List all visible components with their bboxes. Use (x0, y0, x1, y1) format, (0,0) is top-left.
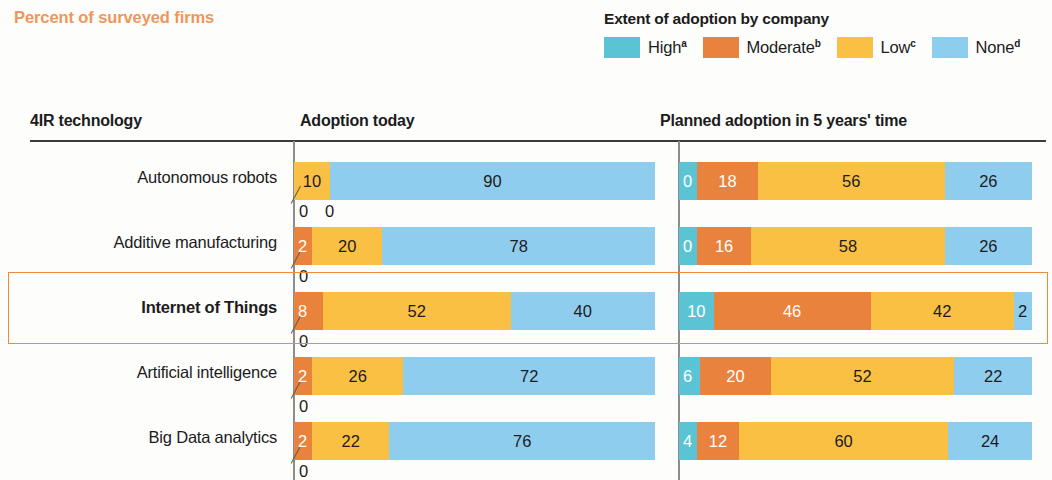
zero-callout-high: 0 (299, 462, 308, 480)
bar-value-label: 10 (303, 172, 321, 191)
bar-segment-future-moderate: 12 (697, 422, 739, 460)
row-label-additive-manufacturing: Additive manufacturing (114, 233, 277, 252)
stacked-bar-future: 0165826 (679, 227, 1032, 265)
bar-segment-today-low: 20 (312, 227, 382, 265)
bar-value-label: 46 (783, 302, 801, 321)
bar-value-label: 52 (853, 367, 871, 386)
bar-value-label: 72 (520, 367, 538, 386)
bar-value-label: 0 (679, 237, 692, 256)
bar-value-label: 22 (984, 367, 1002, 386)
legend-swatch-high-icon (604, 37, 640, 58)
bar-segment-future-high: 0 (679, 162, 697, 200)
bar-value-label: 78 (509, 237, 527, 256)
bar-value-label: 60 (834, 432, 852, 451)
legend-footnote-marker: b (815, 38, 821, 49)
row-label-autonomous-robots: Autonomous robots (137, 168, 277, 187)
column-header-planned-adoption: Planned adoption in 5 years' time (660, 112, 907, 130)
legend-item-high[interactable]: Higha (604, 37, 687, 58)
bar-value-label: 2 (294, 432, 307, 451)
bar-value-label: 26 (979, 172, 997, 191)
legend-item-moderate[interactable]: Moderateb (703, 37, 821, 58)
bar-value-label: 26 (979, 237, 997, 256)
bar-segment-future-none: 22 (954, 357, 1032, 395)
figure-kicker: Percent of surveyed firms (14, 8, 214, 27)
stacked-bar-today: 22276 (294, 422, 655, 460)
legend-footnote-marker: d (1014, 38, 1020, 49)
stacked-bar-today: 1090 (294, 162, 655, 200)
chart-row[interactable]: Autonomous robots1090018562600 (0, 150, 1052, 215)
bar-segment-today-none: 90 (330, 162, 655, 200)
bar-segment-today-low: 26 (312, 357, 403, 395)
bar-value-label: 26 (348, 367, 366, 386)
bar-segment-future-high: 6 (679, 357, 700, 395)
chart-row[interactable]: Artificial intelligence2267262052220 (0, 345, 1052, 410)
legend-title: Extent of adoption by company (604, 10, 1052, 28)
bar-value-label: 20 (338, 237, 356, 256)
bar-value-label: 24 (981, 432, 999, 451)
bar-segment-today-none: 76 (389, 422, 655, 460)
bar-value-label: 22 (341, 432, 359, 451)
bar-segment-today-none: 78 (382, 227, 655, 265)
bar-value-label: 42 (933, 302, 951, 321)
legend-item-none[interactable]: Noned (932, 37, 1021, 58)
bar-value-label: 52 (408, 302, 426, 321)
legend-swatch-moderate-icon (703, 37, 739, 58)
chart-figure: Percent of surveyed firms Extent of adop… (0, 0, 1052, 480)
legend-swatch-none-icon (932, 37, 968, 58)
bar-segment-future-high: 4 (679, 422, 697, 460)
legend-swatch-low-icon (837, 37, 873, 58)
bar-value-label: 58 (839, 237, 857, 256)
bar-value-label: 12 (709, 432, 727, 451)
header-rule (30, 140, 1046, 142)
bar-value-label: 2 (294, 367, 307, 386)
chart-row[interactable]: Big Data analytics2227641260240 (0, 410, 1052, 475)
column-header-technology: 4IR technology (30, 112, 142, 130)
legend-label-low: Lowc (881, 38, 916, 57)
bar-segment-future-moderate: 20 (700, 357, 771, 395)
bar-segment-future-none: 24 (948, 422, 1032, 460)
bar-segment-future-high: 0 (679, 227, 697, 265)
bar-value-label: 20 (726, 367, 744, 386)
bar-value-label: 4 (679, 432, 692, 451)
bar-segment-future-none: 26 (945, 162, 1032, 200)
bar-value-label: 8 (294, 302, 307, 321)
legend-item-low[interactable]: Lowc (837, 37, 916, 58)
bar-value-label: 18 (718, 172, 736, 191)
bar-value-label: 90 (483, 172, 501, 191)
row-label-big-data-analytics: Big Data analytics (149, 428, 277, 447)
bar-value-label: 6 (679, 367, 692, 386)
stacked-bar-future: 4126024 (679, 422, 1032, 460)
legend-label-moderate: Moderateb (747, 38, 821, 57)
bar-value-label: 10 (687, 302, 705, 321)
bar-segment-future-moderate: 18 (697, 162, 758, 200)
column-header-adoption-today: Adoption today (300, 112, 415, 130)
legend-label-none: Noned (976, 38, 1021, 57)
bar-value-label: 2 (294, 237, 307, 256)
bar-value-label: 16 (715, 237, 733, 256)
chart-row[interactable]: Additive manufacturing2207801658260 (0, 215, 1052, 280)
stacked-bar-future: 0185626 (679, 162, 1032, 200)
bar-value-label: 76 (513, 432, 531, 451)
bar-value-label: 40 (574, 302, 592, 321)
stacked-bar-today: 22078 (294, 227, 655, 265)
bar-segment-future-none: 26 (945, 227, 1032, 265)
legend: Extent of adoption by company HighaModer… (604, 10, 1052, 58)
bar-value-label: 0 (679, 172, 692, 191)
bar-segment-future-low: 52 (771, 357, 955, 395)
bar-segment-today-none: 72 (403, 357, 655, 395)
legend-footnote-marker: c (910, 38, 915, 49)
stacked-bar-future: 6205222 (679, 357, 1032, 395)
row-label-artificial-intelligence: Artificial intelligence (137, 363, 277, 382)
legend-items: HighaModeratebLowcNoned (604, 37, 1052, 58)
bar-segment-future-low: 58 (751, 227, 944, 265)
bar-segment-today-low: 10 (294, 162, 330, 200)
bar-segment-future-low: 60 (739, 422, 948, 460)
highlight-box-internet-of-things (8, 272, 1048, 344)
legend-label-high: Higha (648, 38, 687, 57)
stacked-bar-today: 22672 (294, 357, 655, 395)
bar-segment-future-moderate: 16 (697, 227, 751, 265)
bar-segment-today-low: 22 (312, 422, 389, 460)
bar-value-label: 56 (842, 172, 860, 191)
legend-footnote-marker: a (681, 38, 686, 49)
bar-value-label: 2 (1014, 302, 1027, 321)
